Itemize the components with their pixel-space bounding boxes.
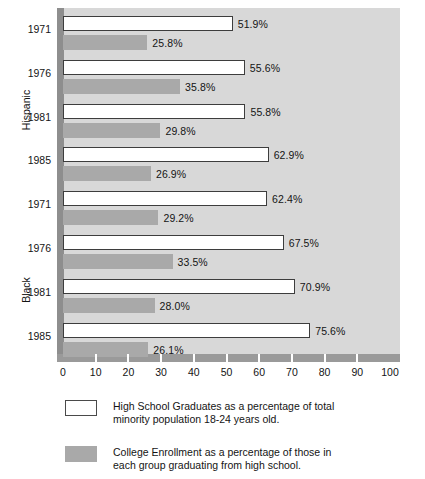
x-axis-tick-label: 30 [146,366,176,378]
bar-high-school [63,323,310,338]
bar-high-school [63,104,245,119]
bar-value-label-college: 28.0% [160,300,190,312]
x-axis-tick-mark [127,354,129,362]
x-axis-tick-mark [160,354,162,362]
group-label-black: Black [20,255,32,325]
legend-label-college-line1: College Enrollment as a percentage of th… [113,446,413,459]
bar-college-enrollment [63,35,147,50]
x-axis-tick-label: 80 [310,366,340,378]
bar-high-school [63,279,295,294]
x-axis-tick-mark [324,354,326,362]
x-axis-tick-label: 90 [342,366,372,378]
y-axis-tick-label: 1971 [11,23,51,35]
group-label-hispanic: Hispanic [20,75,32,145]
bar-value-label-high-school: 75.6% [315,325,345,337]
x-axis-tick-label: 100 [375,366,405,378]
x-axis-tick-label: 10 [81,366,111,378]
bar-college-enrollment [63,342,148,357]
x-axis-tick-label: 0 [48,366,78,378]
bar-value-label-college: 26.1% [153,344,183,356]
x-axis-tick-label: 70 [277,366,307,378]
x-axis-tick-label: 50 [212,366,242,378]
legend-item-high-school: High School Graduates as a percentage of… [57,400,417,434]
bar-high-school [63,147,269,162]
bar-value-label-high-school: 62.9% [274,149,304,161]
bar-college-enrollment [63,298,155,313]
bar-value-label-high-school: 55.6% [250,62,280,74]
bar-value-label-college: 26.9% [156,168,186,180]
bar-value-label-high-school: 51.9% [238,18,268,30]
bar-value-label-college: 35.8% [185,81,215,93]
legend-label-high-school: High School Graduates as a percentage of… [113,400,413,425]
legend-label-college: College Enrollment as a percentage of th… [113,446,413,471]
y-axis-tick-label: 1976 [11,242,51,254]
x-axis-tick-label: 40 [179,366,209,378]
chart-legend: High School Graduates as a percentage of… [57,400,417,479]
bar-college-enrollment [63,123,160,138]
x-axis-tick-mark [95,354,97,362]
legend-label-college-line2: each group graduating from high school. [113,459,413,472]
bar-value-label-high-school: 67.5% [289,237,319,249]
horizontal-bar-chart: 51.9%25.8%197155.6%35.8%197655.8%29.8%19… [0,0,425,479]
bar-college-enrollment [63,79,180,94]
bar-value-label-college: 29.8% [165,125,195,137]
bar-value-label-college: 29.2% [163,212,193,224]
legend-swatch-high-school-icon [65,400,97,416]
x-axis-tick-label: 60 [244,366,274,378]
x-axis-tick-label: 20 [113,366,143,378]
bar-value-label-high-school: 55.8% [250,106,280,118]
x-axis-tick-mark [258,354,260,362]
bar-college-enrollment [63,254,173,269]
legend-label-high-school-line2: minority population 18-24 years old. [113,413,413,426]
bar-high-school [63,235,284,250]
bar-high-school [63,191,267,206]
x-axis-tick-mark [356,354,358,362]
bar-college-enrollment [63,166,151,181]
x-axis-tick-mark [226,354,228,362]
y-axis-tick-label: 1985 [11,330,51,342]
legend-swatch-college-icon [65,446,97,462]
bar-high-school [63,16,233,31]
legend-item-college: College Enrollment as a percentage of th… [57,446,417,479]
x-axis-tick-mark [193,354,195,362]
x-axis-tick-mark [291,354,293,362]
y-axis-tick-label: 1971 [11,198,51,210]
bar-high-school [63,60,245,75]
y-axis-tick-label: 1985 [11,154,51,166]
bar-college-enrollment [63,210,158,225]
bar-value-label-high-school: 70.9% [300,281,330,293]
bar-value-label-college: 33.5% [178,256,208,268]
legend-label-high-school-line1: High School Graduates as a percentage of… [113,400,413,413]
bar-value-label-high-school: 62.4% [272,193,302,205]
bar-value-label-college: 25.8% [152,37,182,49]
